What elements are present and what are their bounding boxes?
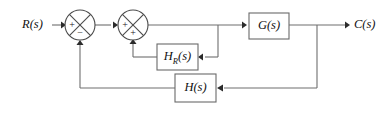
- block-g-label-base: G: [258, 18, 267, 32]
- arrowhead-output: [345, 22, 350, 29]
- output-label: C(s): [354, 18, 376, 31]
- summer-1-feedback-sign: −: [77, 27, 83, 38]
- input-label: R(s): [22, 18, 43, 31]
- summer-2-input-sign: +: [122, 19, 128, 30]
- block-g-label-suffix: (s): [267, 18, 280, 32]
- arrowhead-hr-input: [198, 54, 203, 61]
- block-hr-label-suffix: (s): [178, 49, 191, 63]
- arrowhead-h-input: [217, 85, 223, 92]
- block-h-label: H(s): [175, 81, 216, 94]
- arrowhead-g-input: [242, 22, 247, 29]
- summer-1-input-sign: +: [69, 19, 75, 30]
- block-h-label-suffix: (s): [193, 80, 206, 94]
- block-g-label: G(s): [249, 19, 289, 32]
- summer-2-feedback-sign: +: [130, 27, 136, 38]
- block-diagram: + − + + R(s) C(s) G(s) HR(s) H(s): [0, 0, 386, 115]
- arrowhead-summer1-feedback: [77, 40, 84, 45]
- summer-2[interactable]: + +: [118, 10, 148, 40]
- summer-1[interactable]: + −: [65, 10, 95, 40]
- arrowhead-summer2-input: [113, 22, 118, 29]
- block-hr-label-base: H: [164, 49, 173, 63]
- block-hr-label: HR(s): [157, 50, 198, 65]
